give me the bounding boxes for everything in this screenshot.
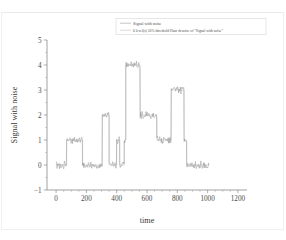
x-tick-label: 0 bbox=[54, 195, 58, 203]
y-tick-label: 4 bbox=[38, 62, 42, 70]
x-tick-label: 800 bbox=[172, 195, 183, 203]
chart-legend: Signal with noise 6 level(s) 50% thresho… bbox=[116, 19, 266, 35]
y-tick-label: 3 bbox=[38, 87, 42, 95]
legend-label-signal: Signal with noise bbox=[133, 21, 162, 26]
y-axis-tick-labels: −1012345 bbox=[34, 37, 42, 195]
y-tick-label: 5 bbox=[38, 37, 42, 45]
x-tick-label: 200 bbox=[81, 195, 92, 203]
page-background: −1012345 020040060080010001200 time Sign… bbox=[0, 0, 286, 240]
chart-canvas: −1012345 020040060080010001200 time Sign… bbox=[0, 0, 286, 240]
x-axis-tick-labels: 020040060080010001200 bbox=[54, 195, 245, 203]
y-axis-ticks bbox=[44, 40, 47, 190]
x-axis-ticks bbox=[56, 190, 238, 193]
legend-label-denoised: 6 level(s) 50% threshold Haar denoise of… bbox=[133, 29, 223, 33]
y-tick-label: 0 bbox=[38, 162, 42, 170]
x-tick-label: 1000 bbox=[200, 195, 215, 203]
x-tick-label: 400 bbox=[111, 195, 122, 203]
chart-figure: −1012345 020040060080010001200 time Sign… bbox=[0, 0, 286, 240]
y-tick-label: 2 bbox=[38, 112, 42, 120]
x-tick-label: 1200 bbox=[231, 195, 246, 203]
y-tick-label: −1 bbox=[34, 187, 42, 195]
y-tick-label: 1 bbox=[38, 137, 42, 145]
x-axis-title: time bbox=[140, 216, 155, 225]
x-tick-label: 600 bbox=[142, 195, 153, 203]
y-axis-title: Signal with noise bbox=[10, 86, 19, 143]
